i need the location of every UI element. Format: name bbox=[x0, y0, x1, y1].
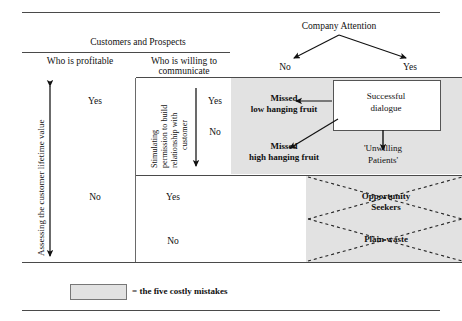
cell-opportunity-seekers-line2: Seekers bbox=[340, 202, 432, 212]
cell-opportunity-seekers-line1: Opportunity bbox=[340, 191, 432, 201]
legend-swatch bbox=[70, 284, 127, 300]
legend-label: = the five costly mistakes bbox=[132, 286, 228, 296]
bottom-border-rule bbox=[22, 310, 440, 311]
cell-plain-waste: Plain waste bbox=[340, 234, 432, 244]
crossed-out-dashed-lines bbox=[0, 0, 462, 321]
